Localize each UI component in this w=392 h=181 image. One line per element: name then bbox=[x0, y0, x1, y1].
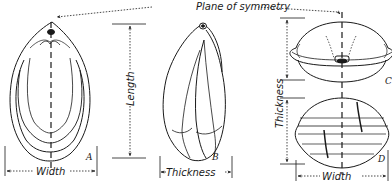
length-label: Length bbox=[125, 71, 136, 106]
figure-a bbox=[10, 22, 90, 168]
width-label-d: Width bbox=[322, 171, 351, 181]
figure-label-a: A bbox=[85, 152, 93, 162]
plane-of-symmetry-label: Plane of symmetry bbox=[196, 1, 291, 12]
width-label-a: Width bbox=[36, 166, 65, 177]
figure-c bbox=[290, 22, 392, 82]
thickness-label-b: Thickness bbox=[166, 167, 215, 178]
figure-label-b: B bbox=[211, 152, 219, 162]
figure-label-d: D bbox=[377, 154, 385, 164]
figure-label-c: C bbox=[385, 76, 392, 86]
plane-of-symmetry-annotation: Plane of symmetry bbox=[57, 1, 340, 17]
seed-diagram: Plane of symmetry A Width Length bbox=[0, 0, 392, 181]
thickness-label-cd: Thickness bbox=[274, 79, 285, 128]
figure-b bbox=[163, 23, 225, 161]
